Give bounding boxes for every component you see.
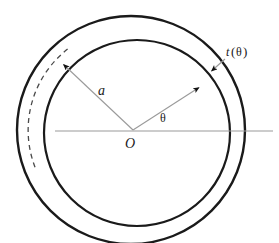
center-label: O [125, 136, 135, 151]
ring-diagram: O a θ t ( θ ) [0, 0, 279, 243]
angle-label: θ [160, 111, 166, 125]
thickness-label-open-paren: ( [231, 44, 235, 59]
diagram-background [0, 0, 279, 243]
thickness-label-close-paren: ) [243, 44, 247, 59]
figure-root: O a θ t ( θ ) [0, 0, 279, 243]
radius-label: a [98, 83, 105, 98]
thickness-label: t ( θ ) [226, 44, 247, 59]
thickness-label-argument: θ [236, 45, 242, 59]
